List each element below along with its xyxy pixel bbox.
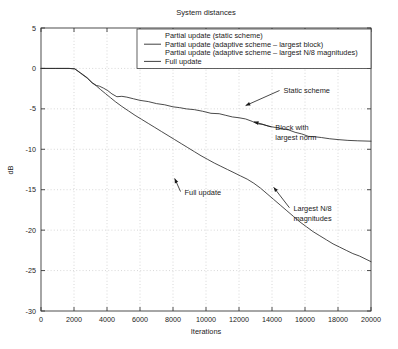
- y-tick-label: -30: [26, 307, 36, 316]
- annotation-label: Full update: [185, 188, 222, 197]
- annotation-label: Largest N/8: [293, 204, 331, 213]
- legend-item-label: Full update: [165, 57, 202, 66]
- y-tick-label: 5: [32, 24, 36, 33]
- x-tick-label: 8000: [165, 315, 181, 324]
- x-axis-title: Iterations: [191, 327, 222, 336]
- system-distances-chart: 0200040006000800010000120001400016000180…: [0, 0, 398, 349]
- annotation-label: largest norm: [275, 133, 316, 142]
- y-axis-title: dB: [6, 165, 15, 174]
- annotation-label: magnitudes: [293, 214, 332, 223]
- chart-legend: Partial update (static scheme)Partial up…: [137, 29, 371, 68]
- y-tick-label: -25: [26, 266, 36, 275]
- x-tick-label: 0: [39, 315, 43, 324]
- x-tick-label: 2000: [66, 315, 82, 324]
- y-tick-label: -15: [26, 185, 36, 194]
- x-tick-label: 16000: [295, 315, 315, 324]
- chart-title: System distances: [176, 8, 236, 17]
- y-tick-label: -10: [26, 145, 36, 154]
- x-tick-label: 14000: [262, 315, 282, 324]
- y-tick-label: 0: [32, 64, 36, 73]
- annotation-label: Static scheme: [284, 86, 330, 95]
- x-tick-label: 20000: [361, 315, 381, 324]
- x-tick-label: 4000: [99, 315, 115, 324]
- chart-figure: 0200040006000800010000120001400016000180…: [0, 0, 398, 349]
- y-tick-label: -20: [26, 226, 36, 235]
- x-tick-label: 10000: [196, 315, 216, 324]
- x-tick-label: 6000: [132, 315, 148, 324]
- annotation-label: Block with: [275, 123, 308, 132]
- x-tick-label: 12000: [229, 315, 249, 324]
- x-tick-label: 18000: [328, 315, 348, 324]
- y-tick-label: -5: [30, 104, 36, 113]
